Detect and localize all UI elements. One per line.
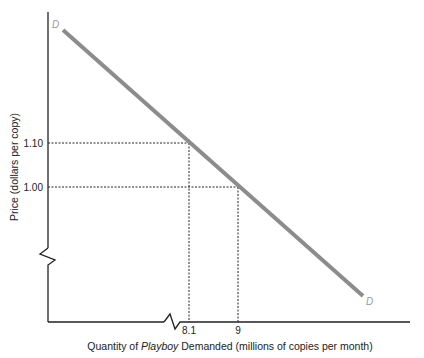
y-axis-label: Price (dollars per copy) — [8, 113, 20, 221]
demand-label-end: D — [366, 296, 373, 307]
guide-lines — [48, 143, 238, 322]
x-axis-label: Quantity of Playboy Demanded (millions o… — [87, 340, 372, 352]
y-axis-break-icon — [40, 248, 55, 322]
y-tick-1-10: 1.10 — [24, 138, 44, 149]
x-axis-break-icon — [164, 314, 410, 329]
demand-chart: D D 1.10 1.00 8.1 9 Price (dollars per c… — [0, 0, 424, 358]
x-tick-8-1: 8.1 — [182, 325, 196, 336]
x-tick-9: 9 — [235, 325, 241, 336]
y-tick-1-00: 1.00 — [24, 182, 44, 193]
demand-label-start: D — [52, 19, 59, 30]
demand-curve — [63, 30, 363, 296]
